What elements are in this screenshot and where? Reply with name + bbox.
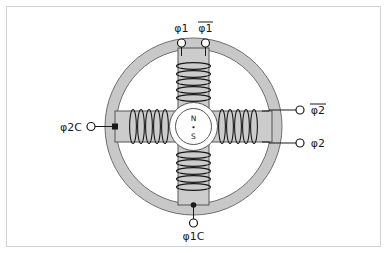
junction-dot-bottom [191, 202, 197, 208]
terminal-node-phi1[interactable] [178, 39, 186, 47]
terminal-node-phi2-bar[interactable] [296, 106, 304, 114]
rotor-north-label: N [191, 114, 197, 123]
label-phi1-bar: φ1 [198, 22, 212, 35]
rotor: N • S [170, 103, 218, 151]
label-phi2-bar: φ2 [311, 104, 325, 117]
terminal-node-phi1c[interactable] [190, 219, 198, 227]
label-phi2c: φ2C [60, 121, 82, 134]
rotor-center-marker: • [191, 123, 195, 132]
label-phi1c: φ1C [183, 230, 205, 243]
figure-frame: N • S [0, 0, 387, 253]
terminal-node-phi1-bar[interactable] [202, 39, 210, 47]
terminal-node-phi2c[interactable] [87, 123, 95, 131]
terminal-node-phi2[interactable] [296, 139, 304, 147]
junction-dot-left [112, 124, 118, 130]
rotor-south-label: S [191, 132, 196, 141]
label-phi1: φ1 [174, 22, 188, 35]
stepper-motor-diagram: N • S [0, 0, 387, 253]
label-phi2: φ2 [311, 137, 325, 150]
